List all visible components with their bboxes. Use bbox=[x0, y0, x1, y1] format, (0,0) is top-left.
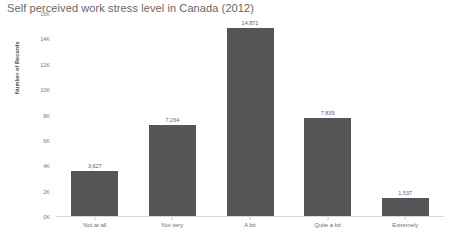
bar-value-label: 7,839 bbox=[321, 110, 335, 116]
y-axis-tick-label: 8K bbox=[43, 113, 50, 119]
x-axis-tick-mark bbox=[327, 217, 328, 220]
plot-area: 16K14K12K10K8K6K4K2K0K 3,6277,26414,8717… bbox=[56, 14, 444, 217]
x-axis-category-label: A bit bbox=[244, 222, 255, 228]
y-axis-tick-label: 10K bbox=[40, 87, 50, 93]
bar[interactable] bbox=[71, 171, 118, 217]
bar-chart: Self perceived work stress level in Cana… bbox=[0, 0, 449, 245]
y-axis-tick-label: 4K bbox=[43, 163, 50, 169]
x-axis-tick-mark bbox=[94, 217, 95, 220]
x-axis-category-label: Extremely bbox=[392, 222, 418, 228]
bar-group[interactable]: 7,264 bbox=[149, 14, 196, 217]
y-axis-tick-label: 2K bbox=[43, 189, 50, 195]
bar-group[interactable]: 3,627 bbox=[71, 14, 118, 217]
bar[interactable] bbox=[304, 118, 351, 217]
x-axis-category-label: Quite a bit bbox=[314, 222, 340, 228]
y-axis-tick-label: 14K bbox=[40, 36, 50, 42]
bar[interactable] bbox=[382, 198, 429, 218]
y-axis-tick-label: 12K bbox=[40, 62, 50, 68]
x-axis-tick-mark bbox=[405, 217, 406, 220]
bar-group[interactable]: 1,537 bbox=[382, 14, 429, 217]
y-axis-tick-label: 16K bbox=[40, 11, 50, 17]
bar[interactable] bbox=[227, 28, 274, 217]
bar-group[interactable]: 14,871 bbox=[227, 14, 274, 217]
x-axis: Not at allNot veryA bitQuite a bitExtrem… bbox=[56, 217, 444, 243]
bar-value-label: 1,537 bbox=[398, 190, 412, 196]
bar-value-label: 3,627 bbox=[88, 163, 102, 169]
bar-value-label: 7,264 bbox=[166, 117, 180, 123]
bars-layer: 3,6277,26414,8717,8391,537 bbox=[56, 14, 444, 217]
y-axis-title: Number of Records bbox=[14, 24, 20, 94]
x-axis-tick-mark bbox=[250, 217, 251, 220]
bar[interactable] bbox=[149, 125, 196, 217]
bar-group[interactable]: 7,839 bbox=[304, 14, 351, 217]
y-axis-tick-label: 6K bbox=[43, 138, 50, 144]
y-axis-tick-label: 0K bbox=[43, 214, 50, 220]
bar-value-label: 14,871 bbox=[242, 20, 259, 26]
x-axis-category-label: Not very bbox=[162, 222, 184, 228]
x-axis-category-label: Not at all bbox=[83, 222, 106, 228]
x-axis-tick-mark bbox=[172, 217, 173, 220]
